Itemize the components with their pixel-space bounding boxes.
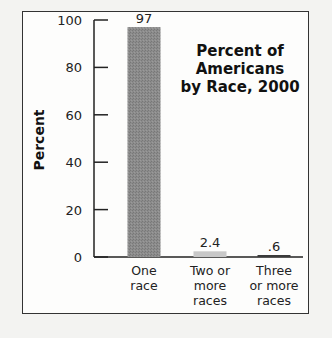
x-category-label: Two or: [189, 263, 231, 278]
y-tick-label: 80: [65, 60, 82, 75]
y-tick-label: 20: [65, 203, 82, 218]
bar: [258, 255, 291, 257]
y-tick-label: 100: [57, 13, 82, 28]
x-category-label: races: [257, 293, 291, 308]
bar-value-label: 97: [136, 11, 153, 26]
bar-chart: Percent of Americans by Race, 2000 Perce…: [0, 0, 332, 338]
chart-title-line-1: Percent of: [196, 42, 284, 60]
bar: [194, 251, 227, 257]
y-tick-label: 40: [65, 155, 82, 170]
y-axis-label: Percent: [31, 109, 47, 170]
chart-title-line-2: Americans: [196, 60, 285, 78]
bar: [128, 27, 161, 257]
bar-value-label: .6: [268, 239, 280, 254]
x-category-label: more: [194, 278, 227, 293]
x-category-label: One: [131, 263, 157, 278]
x-axis-categories: OneraceTwo ormoreracesThreeor moreraces: [130, 263, 299, 308]
x-category-label: Three: [255, 263, 292, 278]
y-tick-label: 0: [74, 250, 82, 265]
x-category-label: races: [193, 293, 227, 308]
x-category-label: race: [130, 278, 158, 293]
chart-title-line-3: by Race, 2000: [180, 78, 299, 96]
y-tick-label: 60: [65, 108, 82, 123]
bar-value-label: 2.4: [200, 235, 221, 250]
x-category-label: or more: [249, 278, 298, 293]
